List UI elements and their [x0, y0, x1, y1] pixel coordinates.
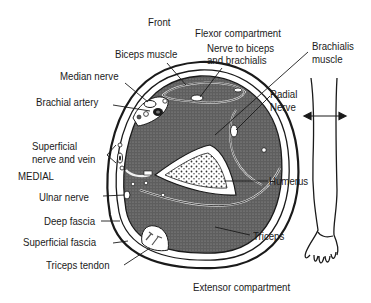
label-triceps-tendon: Triceps tendon: [46, 259, 110, 271]
label-triceps: Triceps: [253, 230, 284, 242]
double-arrow-icon: [304, 113, 346, 120]
label-brachialis-2: muscle: [312, 53, 343, 65]
label-brachialis-1: Brachialis: [312, 40, 354, 52]
label-flexor-compartment: Flexor compartment: [195, 27, 281, 39]
label-radial-nerve-2: Nerve: [270, 101, 296, 113]
label-medial: MEDIAL: [18, 170, 54, 182]
median-nerve-shape: [144, 101, 156, 108]
radial-nerve-shape: [231, 125, 238, 137]
label-ulnar-nerve: Ulnar nerve: [39, 191, 89, 203]
label-nerve-to-biceps-1: Nerve to biceps: [207, 42, 274, 54]
label-radial-nerve-1: Radial: [270, 88, 297, 100]
label-median-nerve: Median nerve: [60, 70, 119, 82]
label-superficial-nerve-2: nerve and vein: [32, 153, 95, 165]
label-deep-fascia: Deep fascia: [44, 215, 95, 227]
label-brachial-artery: Brachial artery: [36, 96, 98, 108]
arm-silhouette-icon: [305, 78, 338, 263]
label-nerve-to-biceps-2: and brachialis: [207, 54, 267, 66]
label-humerus: Humerus: [269, 175, 308, 187]
label-superficial-fascia: Superficial fascia: [23, 236, 96, 248]
label-front: Front: [148, 16, 171, 28]
label-extensor-compartment: Extensor compartment: [193, 281, 290, 293]
label-biceps-muscle: Biceps muscle: [115, 48, 177, 60]
label-superficial-nerve-1: Superficial: [32, 140, 77, 152]
